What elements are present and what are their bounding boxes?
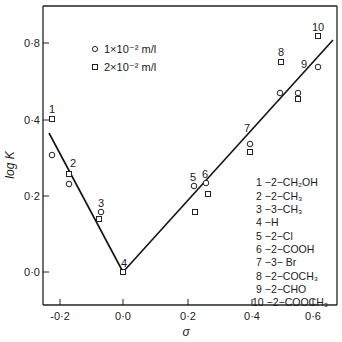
point-label: 3: [98, 197, 104, 209]
x-tick-label: 0·6: [305, 310, 321, 322]
data-point-circle: [247, 141, 253, 147]
y-tick-label: 0·2: [24, 190, 40, 202]
key-item: 5 −2−Cl: [256, 230, 293, 242]
y-tick-label: 0·8: [24, 37, 40, 49]
y-tick-label: 0·4: [24, 114, 40, 126]
data-point-square: [193, 210, 198, 215]
data-point-circle: [277, 90, 283, 96]
y-axis: 0·0 0·2 0·4 0·8 log K: [3, 37, 49, 278]
point-label: 8: [278, 46, 284, 58]
data-point-circle: [98, 209, 104, 215]
legend-label-circle: 1×10⁻² m/l: [104, 43, 156, 55]
data-point-circle: [49, 152, 55, 158]
x-axis-title: σ: [182, 325, 190, 339]
data-point-circle: [295, 90, 301, 96]
legend: 1×10⁻² m/l 2×10⁻² m/l: [92, 43, 156, 73]
y-tick-label: 0·0: [24, 266, 40, 278]
legend-circle-icon: [92, 46, 97, 51]
substituent-key: 1 −2−CH₂OH 2 −2−CH₃ 3 −3−CH₃ 4 −H 5 −2−C…: [252, 176, 328, 308]
key-item: 10 −2−COOCH₃: [252, 296, 328, 308]
key-item: 1 −2−CH₂OH: [256, 176, 318, 188]
legend-square-icon: [93, 65, 98, 70]
point-label: 9: [301, 58, 307, 70]
x-tick-label: 0·0: [115, 310, 131, 322]
chart: 0·0 0·2 0·4 0·8 log K -0·2 0·0 0·2 0·4 0…: [0, 0, 342, 342]
point-label: 6: [202, 168, 208, 180]
key-item: 8 −2−COCH₃: [256, 270, 318, 282]
data-point-circle: [191, 183, 197, 189]
data-point-square: [279, 60, 284, 65]
data-point-square: [67, 172, 72, 177]
data-point-circle: [66, 181, 72, 187]
data-point-square: [206, 192, 211, 197]
point-label: 1: [49, 103, 55, 115]
x-tick-label: 0·2: [180, 310, 196, 322]
data-point-square: [97, 217, 102, 222]
key-item: 2 −2−CH₃: [256, 190, 302, 202]
point-label: 10: [312, 21, 324, 33]
key-item: 6 −2−COOH: [256, 243, 314, 255]
point-label: 5: [190, 171, 196, 183]
fit-line-left: [49, 133, 123, 272]
x-tick-label: 0·4: [244, 310, 260, 322]
legend-label-square: 2×10⁻² m/l: [104, 61, 156, 73]
key-item: 9 −2−CHO: [256, 283, 306, 295]
fit-line-right: [123, 40, 333, 272]
data-point-circle: [315, 64, 321, 70]
point-label: 4: [121, 257, 127, 269]
key-item: 3 −3−CH₃: [256, 203, 302, 215]
point-label: 2: [70, 157, 76, 169]
data-point-square: [248, 150, 253, 155]
key-item: 4 −H: [256, 216, 278, 228]
data-point-square: [316, 34, 321, 39]
x-tick-label: -0·2: [50, 310, 70, 322]
data-point-square: [296, 97, 301, 102]
data-point-square: [50, 117, 55, 122]
key-item: 7 −3− Br: [256, 256, 297, 268]
data-point-square: [121, 270, 126, 275]
data-point-circle: [203, 180, 209, 186]
point-label: 7: [244, 122, 250, 134]
y-axis-title: log K: [3, 150, 17, 178]
